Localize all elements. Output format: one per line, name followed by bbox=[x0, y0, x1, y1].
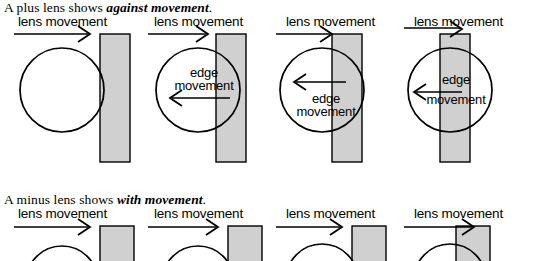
lens-circle bbox=[20, 48, 104, 132]
minus-caption-emphasis: with movement bbox=[117, 192, 203, 207]
lens-movement-arrow bbox=[276, 219, 342, 235]
edge-movement-label-line2: movement bbox=[426, 92, 486, 107]
plus-panel-3-graphic: edge movement bbox=[272, 14, 408, 174]
lens-movement-arrow bbox=[276, 26, 332, 42]
minus-panel-3-graphic bbox=[272, 206, 408, 261]
target-bar bbox=[456, 226, 490, 261]
minus-panel-1: lens movement bbox=[4, 206, 140, 261]
figure-canvas: A plus lens shows against movement. lens… bbox=[0, 0, 542, 261]
plus-lens-row: lens movement lens movement bbox=[0, 14, 542, 186]
plus-caption-prefix: A plus lens shows bbox=[4, 0, 106, 15]
minus-caption-suffix: . bbox=[203, 192, 206, 207]
plus-caption-emphasis: against movement bbox=[106, 0, 208, 15]
lens-movement-arrow bbox=[148, 26, 208, 42]
minus-panel-4: lens movement bbox=[400, 206, 536, 261]
edge-movement-label-line2: movement bbox=[296, 104, 356, 119]
lens-movement-arrow bbox=[404, 21, 462, 37]
lens-movement-arrow bbox=[14, 219, 90, 235]
target-bar bbox=[100, 34, 130, 162]
lens-movement-arrow bbox=[14, 26, 90, 42]
target-bar bbox=[228, 226, 262, 261]
target-bar bbox=[352, 226, 386, 261]
minus-caption-prefix: A minus lens shows bbox=[4, 192, 117, 207]
lens-circle bbox=[286, 244, 358, 261]
plus-caption-suffix: . bbox=[209, 0, 212, 15]
minus-panel-2: lens movement bbox=[140, 206, 276, 261]
lens-circle bbox=[162, 246, 234, 261]
target-bar bbox=[100, 226, 134, 261]
plus-panel-1: lens movement bbox=[4, 14, 140, 174]
lens-movement-arrow bbox=[148, 219, 218, 235]
plus-panel-4: lens movement edge movement bbox=[400, 14, 536, 174]
plus-panel-3: lens movement edge movement bbox=[272, 14, 408, 174]
minus-lens-caption: A minus lens shows with movement. bbox=[4, 193, 206, 207]
minus-panel-3: lens movement bbox=[272, 206, 408, 261]
edge-movement-label-line1: edge bbox=[442, 72, 470, 87]
plus-panel-1-graphic bbox=[4, 14, 140, 174]
plus-lens-caption: A plus lens shows against movement. bbox=[4, 1, 212, 15]
edge-movement-label-line2: movement bbox=[174, 78, 234, 93]
minus-panel-2-graphic bbox=[140, 206, 276, 261]
plus-panel-2-graphic: edge movement bbox=[140, 14, 276, 174]
plus-panel-2: lens movement edge movement bbox=[140, 14, 276, 174]
plus-panel-4-graphic: edge movement bbox=[400, 14, 536, 174]
lens-circle bbox=[26, 246, 98, 261]
minus-lens-row: lens movement lens movement bbox=[0, 206, 542, 261]
minus-panel-1-graphic bbox=[4, 206, 140, 261]
minus-panel-4-graphic bbox=[400, 206, 536, 261]
